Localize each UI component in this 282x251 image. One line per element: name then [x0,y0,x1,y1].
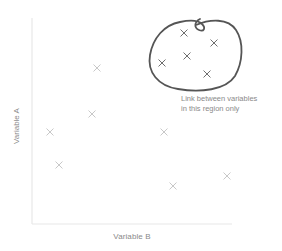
y-axis-label-container: Variable A [10,0,22,251]
annotation-line-2: in this region only [181,104,257,114]
points-inside-region [159,30,217,77]
diagram-canvas [0,0,282,251]
cross-marker-icon [161,129,167,135]
annotation-line-1: Link between variables [181,94,257,104]
cross-marker-icon [159,60,165,66]
y-axis-label: Variable A [12,108,21,144]
x-axis-label: Variable B [0,232,264,241]
cross-marker-icon [211,40,217,46]
points-outside-region [47,65,230,189]
scatter-diagram: Variable A Variable B Link between varia… [0,0,282,251]
cross-marker-icon [224,173,230,179]
cross-marker-icon [184,53,190,59]
cross-marker-icon [47,129,53,135]
cross-marker-icon [170,183,176,189]
cross-marker-icon [94,65,100,71]
cross-marker-icon [89,111,95,117]
cross-marker-icon [181,30,187,36]
highlight-region-outline [150,19,242,91]
region-annotation: Link between variables in this region on… [181,94,257,113]
cross-marker-icon [204,71,210,77]
cross-marker-icon [56,162,62,168]
